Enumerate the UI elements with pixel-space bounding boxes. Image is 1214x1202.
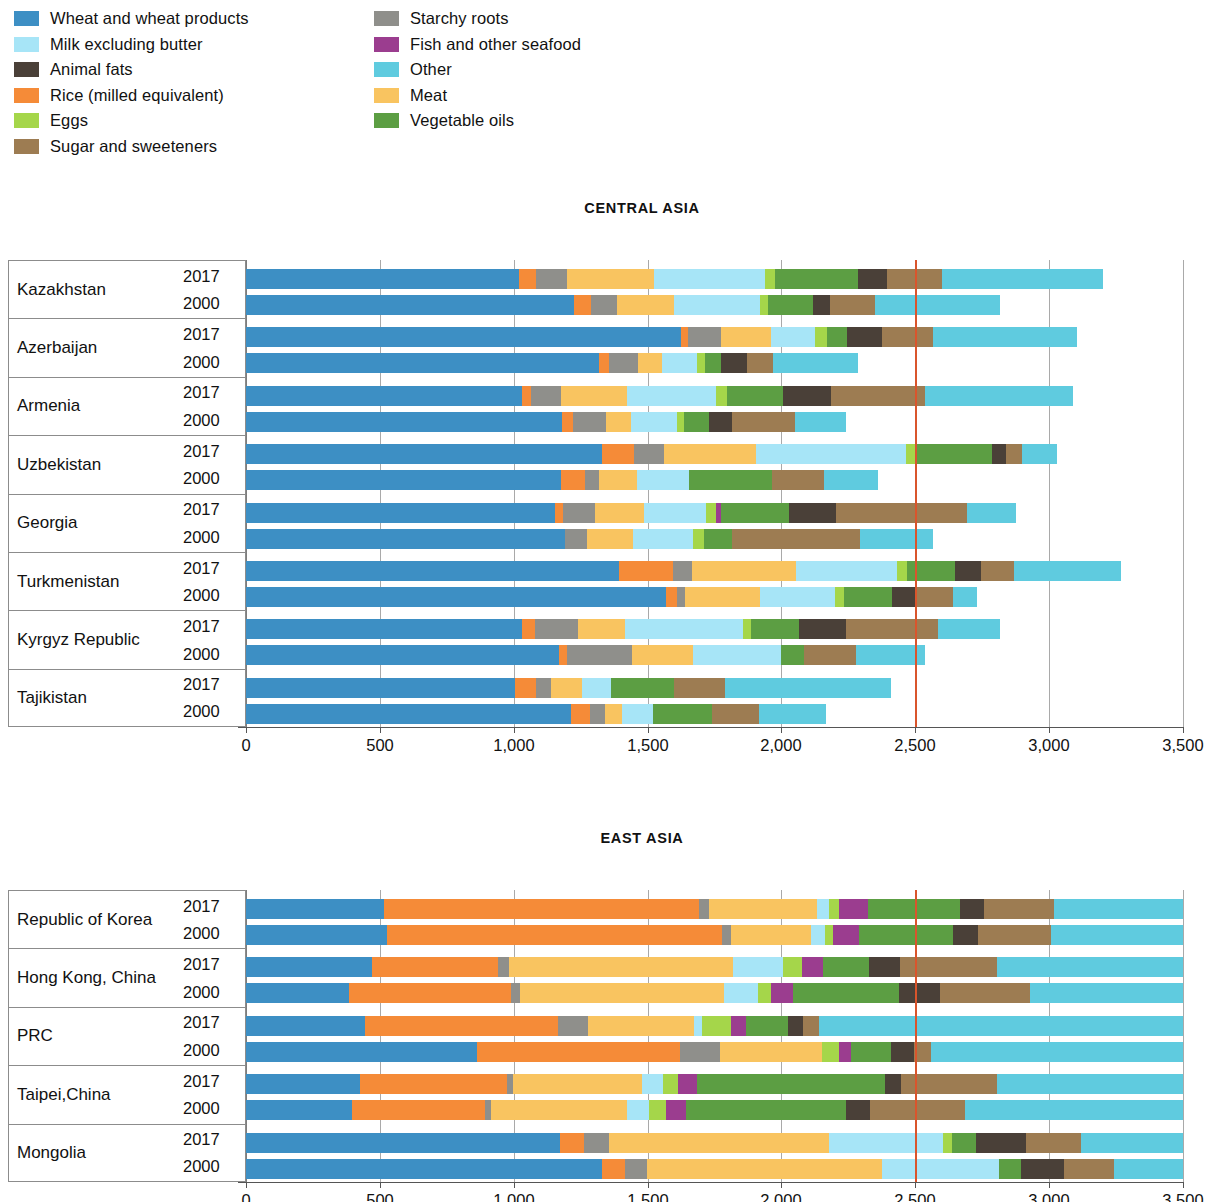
- bar-segment-milk[interactable]: [642, 1074, 663, 1094]
- bar-segment-animalfats[interactable]: [992, 444, 1007, 464]
- bar-segment-wheat[interactable]: [246, 529, 565, 549]
- bar-segment-sugar[interactable]: [1064, 1159, 1114, 1179]
- bar-segment-starchy[interactable]: [590, 704, 605, 724]
- bar-segment-vegoils[interactable]: [827, 327, 847, 347]
- bar-segment-wheat[interactable]: [246, 1042, 477, 1062]
- bar-segment-wheat[interactable]: [246, 1133, 560, 1153]
- bar-segment-animalfats[interactable]: [976, 1133, 1026, 1153]
- bar-segment-eggs[interactable]: [706, 503, 715, 523]
- bar-segment-sugar[interactable]: [981, 561, 1014, 581]
- bar-segment-animalfats[interactable]: [869, 957, 899, 977]
- bar-segment-other[interactable]: [1030, 983, 1183, 1003]
- bar-segment-vegoils[interactable]: [851, 1042, 891, 1062]
- bar-segment-eggs[interactable]: [822, 1042, 839, 1062]
- bar-segment-meat[interactable]: [567, 269, 654, 289]
- bar-segment-starchy[interactable]: [567, 645, 631, 665]
- legend-item-starchy[interactable]: Starchy roots: [374, 6, 774, 32]
- bar-segment-wheat[interactable]: [246, 645, 559, 665]
- bar-segment-vegoils[interactable]: [689, 470, 772, 490]
- bar-segment-sugar[interactable]: [803, 1016, 818, 1036]
- bar-segment-eggs[interactable]: [835, 587, 844, 607]
- bar-segment-wheat[interactable]: [246, 957, 372, 977]
- bar-segment-vegoils[interactable]: [697, 1074, 885, 1094]
- bar-segment-meat[interactable]: [578, 619, 625, 639]
- bar-kazakhstan-2017[interactable]: [246, 269, 1183, 289]
- bar-kyrgyz-republic-2000[interactable]: [246, 645, 1183, 665]
- bar-segment-meat[interactable]: [605, 704, 622, 724]
- legend-item-sugar[interactable]: Sugar and sweeteners: [14, 134, 374, 160]
- bar-segment-eggs[interactable]: [677, 412, 684, 432]
- bar-segment-wheat[interactable]: [246, 1074, 360, 1094]
- bar-segment-wheat[interactable]: [246, 503, 555, 523]
- bar-segment-other[interactable]: [1114, 1159, 1183, 1179]
- bar-segment-vegoils[interactable]: [705, 353, 721, 373]
- bar-segment-wheat[interactable]: [246, 444, 602, 464]
- bar-segment-meat[interactable]: [588, 1016, 694, 1036]
- bar-segment-animalfats[interactable]: [721, 353, 746, 373]
- bar-segment-meat[interactable]: [685, 587, 760, 607]
- bar-segment-other[interactable]: [967, 503, 1015, 523]
- bar-georgia-2017[interactable]: [246, 503, 1183, 523]
- bar-segment-wheat[interactable]: [246, 983, 349, 1003]
- bar-segment-milk[interactable]: [811, 925, 824, 945]
- bar-segment-milk[interactable]: [756, 444, 906, 464]
- bar-segment-rice[interactable]: [372, 957, 498, 977]
- bar-segment-other[interactable]: [875, 295, 999, 315]
- bar-segment-starchy[interactable]: [584, 1133, 609, 1153]
- bar-segment-vegoils[interactable]: [653, 704, 712, 724]
- bar-turkmenistan-2017[interactable]: [246, 561, 1183, 581]
- bar-azerbaijan-2000[interactable]: [246, 353, 1183, 373]
- bar-segment-sugar[interactable]: [882, 327, 933, 347]
- bar-segment-rice[interactable]: [602, 444, 634, 464]
- bar-segment-rice[interactable]: [555, 503, 563, 523]
- bar-segment-animalfats[interactable]: [885, 1074, 901, 1094]
- bar-segment-vegoils[interactable]: [704, 529, 732, 549]
- bar-segment-eggs[interactable]: [829, 899, 839, 919]
- bar-kyrgyz-republic-2017[interactable]: [246, 619, 1183, 639]
- bar-segment-fish[interactable]: [678, 1074, 697, 1094]
- bar-segment-other[interactable]: [1054, 899, 1183, 919]
- bar-hong-kong-china-2000[interactable]: [246, 983, 1183, 1003]
- bar-segment-meat[interactable]: [609, 1133, 829, 1153]
- bar-segment-other[interactable]: [759, 704, 826, 724]
- bar-segment-other[interactable]: [997, 1074, 1183, 1094]
- bar-segment-starchy[interactable]: [677, 587, 685, 607]
- bar-segment-eggs[interactable]: [760, 295, 768, 315]
- bar-segment-starchy[interactable]: [699, 899, 709, 919]
- bar-segment-vegoils[interactable]: [768, 295, 814, 315]
- bar-segment-animalfats[interactable]: [846, 1100, 870, 1120]
- bar-segment-sugar[interactable]: [1026, 1133, 1082, 1153]
- bar-segment-meat[interactable]: [721, 327, 771, 347]
- bar-segment-wheat[interactable]: [246, 327, 681, 347]
- bar-segment-sugar[interactable]: [870, 1100, 965, 1120]
- bar-armenia-2017[interactable]: [246, 386, 1183, 406]
- bar-segment-milk[interactable]: [644, 503, 707, 523]
- legend-item-milk[interactable]: Milk excluding butter: [14, 32, 374, 58]
- bar-segment-sugar[interactable]: [1006, 444, 1022, 464]
- bar-segment-milk[interactable]: [633, 529, 693, 549]
- legend-item-fish[interactable]: Fish and other seafood: [374, 32, 774, 58]
- bar-uzbekistan-2017[interactable]: [246, 444, 1183, 464]
- bar-segment-wheat[interactable]: [246, 353, 599, 373]
- bar-segment-other[interactable]: [819, 1016, 1183, 1036]
- bar-segment-wheat[interactable]: [246, 704, 571, 724]
- bar-segment-other[interactable]: [942, 269, 1103, 289]
- bar-segment-meat[interactable]: [561, 386, 628, 406]
- bar-segment-other[interactable]: [933, 327, 1078, 347]
- bar-segment-vegoils[interactable]: [751, 619, 799, 639]
- bar-segment-meat[interactable]: [606, 412, 631, 432]
- bar-segment-wheat[interactable]: [246, 412, 562, 432]
- bar-segment-fish[interactable]: [802, 957, 824, 977]
- bar-segment-rice[interactable]: [352, 1100, 485, 1120]
- bar-segment-other[interactable]: [931, 1042, 1183, 1062]
- bar-tajikistan-2017[interactable]: [246, 678, 1183, 698]
- bar-segment-vegoils[interactable]: [775, 269, 858, 289]
- bar-segment-fish[interactable]: [839, 1042, 851, 1062]
- bar-segment-vegoils[interactable]: [746, 1016, 788, 1036]
- bar-prc-2000[interactable]: [246, 1042, 1183, 1062]
- bar-segment-rice[interactable]: [477, 1042, 681, 1062]
- bar-segment-meat[interactable]: [513, 1074, 642, 1094]
- bar-segment-meat[interactable]: [617, 295, 675, 315]
- bar-segment-milk[interactable]: [631, 412, 677, 432]
- bar-segment-starchy[interactable]: [558, 1016, 588, 1036]
